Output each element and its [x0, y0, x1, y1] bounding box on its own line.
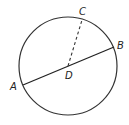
dashed-segment-dc: [68, 20, 82, 66]
label-d: D: [65, 70, 73, 81]
label-b: B: [117, 40, 124, 51]
label-a: A: [9, 81, 17, 92]
label-c: C: [79, 6, 86, 17]
geometry-diagram: A B C D: [0, 0, 129, 125]
